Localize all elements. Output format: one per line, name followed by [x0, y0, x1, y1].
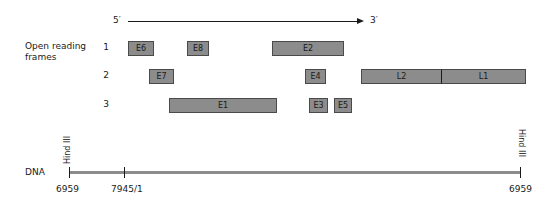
dna-line [69, 171, 520, 174]
orf-l2: L2 [361, 69, 442, 84]
orf-e4: E4 [305, 69, 326, 84]
arrow-head-icon [357, 18, 364, 24]
orf-e6: E6 [128, 41, 154, 56]
orf-e3: E3 [309, 98, 328, 113]
frame-number-3: 3 [101, 99, 111, 109]
orf-title-line-1: Open reading [25, 41, 86, 52]
tick-7945 [124, 167, 126, 178]
frame-number-2: 2 [101, 70, 111, 80]
position-end: 6959 [509, 184, 532, 194]
orf-e1: E1 [169, 98, 277, 113]
frame-number-1: 1 [101, 42, 111, 52]
orf-e2: E2 [272, 41, 344, 56]
orf-title: Open reading frames [25, 41, 86, 63]
position-start: 6959 [56, 184, 79, 194]
tick-right [520, 167, 522, 178]
three-prime-label: 3′ [370, 15, 378, 26]
orf-l1: L1 [441, 69, 526, 84]
dna-label: DNA [25, 167, 45, 178]
orf-e7: E7 [149, 69, 174, 84]
orf-e8: E8 [187, 41, 209, 56]
tick-left [69, 167, 71, 178]
direction-arrow-line [128, 21, 358, 23]
orf-title-line-2: frames [25, 52, 86, 63]
hind-iii-right-label: Hind III [517, 129, 526, 157]
five-prime-label: 5′ [113, 15, 121, 26]
orf-e5: E5 [334, 98, 352, 113]
hind-iii-left-label: Hind III [63, 136, 72, 164]
position-origin: 7945/1 [111, 184, 143, 194]
